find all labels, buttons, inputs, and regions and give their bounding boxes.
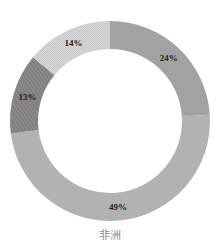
donut-slices bbox=[10, 21, 210, 221]
slice-label: 49% bbox=[109, 202, 127, 212]
slice-label: 13% bbox=[18, 92, 36, 102]
slice-label: 24% bbox=[160, 53, 178, 63]
donut-chart: 24%49%13%14% bbox=[0, 0, 219, 241]
slice-label: 14% bbox=[64, 38, 82, 48]
chart-caption: 非洲 bbox=[0, 226, 219, 241]
donut-slice bbox=[110, 21, 210, 116]
